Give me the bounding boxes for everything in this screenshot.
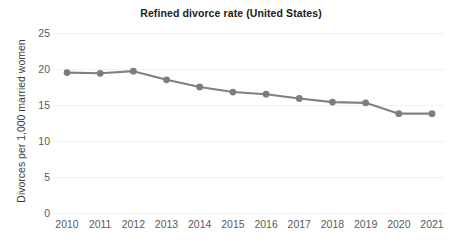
data-point-marker: 2014: 17.5 (196, 84, 203, 91)
data-point-marker: 2018: 15.4 (329, 99, 336, 106)
data-point-marker: 2017: 15.9 (296, 95, 303, 102)
data-point-marker: 2021: 13.8 (429, 110, 436, 117)
data-point-marker: 2011: 19.4 (97, 70, 104, 77)
chart-figure: Refined divorce rate (United States) Div… (0, 0, 462, 244)
data-point-marker: 2016: 16.5 (263, 91, 270, 98)
data-point-marker: 2020: 13.8 (395, 110, 402, 117)
data-point-marker: 2013: 18.5 (163, 76, 170, 83)
data-point-marker: 2019: 15.3 (362, 99, 369, 106)
data-point-marker: 2012: 19.7 (130, 68, 137, 75)
data-point-marker: 2015: 16.8 (230, 89, 237, 96)
data-point-marker: 2010: 19.5 (64, 69, 71, 76)
series-line (67, 71, 432, 113)
line-series-layer: 2010: 19.52011: 19.42012: 19.72013: 18.5… (0, 0, 462, 244)
